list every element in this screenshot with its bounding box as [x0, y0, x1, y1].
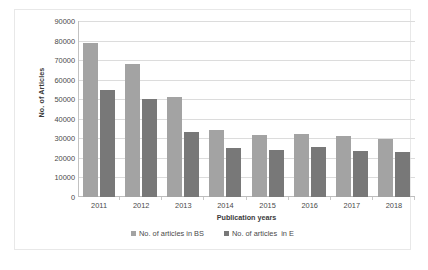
y-axis-tick-label: 50000: [35, 95, 75, 104]
bar[interactable]: [252, 135, 267, 197]
bar[interactable]: [226, 148, 241, 197]
bar[interactable]: [294, 134, 309, 197]
bar-group: [204, 21, 246, 197]
x-axis-tick-label: 2016: [289, 201, 331, 210]
legend-label: No. of articles in E: [232, 229, 294, 238]
x-axis-tick-mark: [247, 197, 289, 200]
bar[interactable]: [142, 99, 157, 197]
bar[interactable]: [269, 150, 284, 197]
chart-legend: No. of articles in BSNo. of articles in …: [15, 229, 410, 238]
bar-group: [120, 21, 162, 197]
x-axis-tick-labels: 20112012201320142015201620172018: [78, 201, 415, 210]
legend-swatch-icon: [131, 231, 136, 236]
bar[interactable]: [311, 147, 326, 197]
y-axis-tick-label: 40000: [35, 114, 75, 123]
x-axis-tick-label: 2012: [120, 201, 162, 210]
x-axis-tick-marks: [78, 197, 415, 200]
x-axis-title: Publication years: [78, 213, 415, 222]
x-axis-tick-label: 2017: [331, 201, 373, 210]
y-axis-tick-label: 80000: [35, 36, 75, 45]
x-axis-tick-label: 2018: [373, 201, 415, 210]
bar[interactable]: [167, 97, 182, 197]
bar-group: [162, 21, 204, 197]
bar-group: [373, 21, 415, 197]
bar-group: [78, 21, 120, 197]
y-axis-tick-label: 10000: [35, 173, 75, 182]
x-axis-tick-label: 2011: [78, 201, 120, 210]
bar[interactable]: [184, 132, 199, 197]
chart-plot-wrapper: No. of Articles 010000200003000040000500…: [15, 10, 410, 249]
bar[interactable]: [125, 64, 140, 197]
bar[interactable]: [378, 139, 393, 197]
bar[interactable]: [353, 151, 368, 197]
y-axis-tick-labels: 0100002000030000400005000060000700008000…: [35, 21, 75, 197]
bar-group: [247, 21, 289, 197]
x-axis-tick-mark: [289, 197, 331, 200]
y-axis-tick-label: 90000: [35, 17, 75, 26]
legend-item[interactable]: No. of articles in BS: [131, 229, 204, 238]
bar[interactable]: [209, 130, 224, 197]
y-axis-tick-label: 20000: [35, 153, 75, 162]
legend-swatch-icon: [224, 231, 229, 236]
x-axis-tick-label: 2013: [162, 201, 204, 210]
y-axis-tick-label: 60000: [35, 75, 75, 84]
x-axis-tick-mark: [373, 197, 415, 200]
x-axis-tick-label: 2015: [247, 201, 289, 210]
x-axis-tick-mark: [78, 197, 120, 200]
legend-label: No. of articles in BS: [139, 229, 204, 238]
legend-item[interactable]: No. of articles in E: [224, 229, 294, 238]
x-axis-tick-label: 2014: [204, 201, 246, 210]
x-axis-tick-mark: [120, 197, 162, 200]
bar-group: [331, 21, 373, 197]
plot-area: [78, 21, 415, 197]
bar-group: [289, 21, 331, 197]
y-axis-tick-label: 70000: [35, 56, 75, 65]
bar-groups: [78, 21, 415, 197]
bar[interactable]: [83, 43, 98, 197]
y-axis-tick-label: 0: [35, 193, 75, 202]
bar[interactable]: [100, 90, 115, 197]
y-axis-tick-label: 30000: [35, 134, 75, 143]
chart-container: No. of Articles 010000200003000040000500…: [14, 9, 411, 250]
x-axis-tick-mark: [162, 197, 204, 200]
x-axis-tick-mark: [204, 197, 246, 200]
bar[interactable]: [336, 136, 351, 197]
bar[interactable]: [395, 152, 410, 197]
x-axis-tick-mark: [331, 197, 373, 200]
